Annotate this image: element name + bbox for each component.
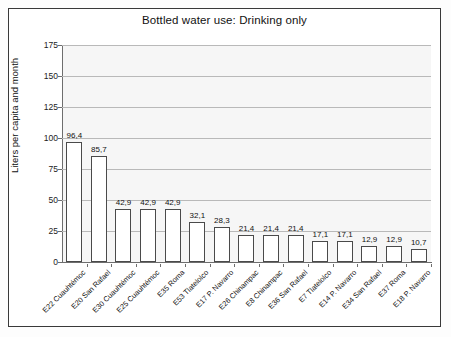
y-axis-ticks: 0255075100125150175 [28, 45, 58, 262]
bar[interactable] [214, 227, 230, 262]
x-tick-mark [259, 264, 260, 267]
bar[interactable] [189, 222, 205, 262]
x-tick-mark [160, 264, 161, 267]
bar-slot[interactable]: 42,9 [160, 45, 185, 262]
bar[interactable] [91, 156, 107, 262]
x-tick-mark [111, 264, 112, 267]
x-tick-mark [431, 264, 432, 267]
x-tick-mark [406, 264, 407, 267]
bar[interactable] [238, 235, 254, 262]
x-tick-label: E25 Cuauhtémoc [115, 268, 162, 315]
bar-value-label: 21,4 [288, 224, 304, 233]
bar-value-label: 96,4 [67, 131, 83, 140]
y-tick-label: 100 [32, 133, 58, 143]
bar[interactable] [312, 241, 328, 262]
bar-slot[interactable]: 21,4 [283, 45, 308, 262]
bar[interactable] [140, 209, 156, 262]
bar-slot[interactable]: 21,4 [259, 45, 284, 262]
y-tick-label: 25 [32, 226, 58, 236]
bar-value-label: 42,9 [140, 198, 156, 207]
bar-value-label: 21,4 [239, 224, 255, 233]
bar-value-label: 42,9 [116, 198, 132, 207]
bar-value-label: 21,4 [263, 224, 279, 233]
x-tick-mark [333, 264, 334, 267]
bar-slot[interactable]: 96,4 [62, 45, 87, 262]
bar-slot[interactable]: 12,9 [357, 45, 382, 262]
bar-series: 96,485,742,942,942,932,128,321,421,421,4… [62, 45, 431, 262]
x-tick-mark [357, 264, 358, 267]
bar[interactable] [386, 246, 402, 262]
bar[interactable] [411, 249, 427, 262]
bar-value-label: 12,9 [362, 235, 378, 244]
bar-slot[interactable]: 17,1 [308, 45, 333, 262]
bar-slot[interactable]: 85,7 [87, 45, 112, 262]
bar-value-label: 42,9 [165, 198, 181, 207]
x-tick-mark [308, 264, 309, 267]
bar-slot[interactable]: 28,3 [210, 45, 235, 262]
x-tick-mark [283, 264, 284, 267]
y-tick-label: 125 [32, 102, 58, 112]
bar[interactable] [361, 246, 377, 262]
x-tick-mark [210, 264, 211, 267]
x-tick-mark [382, 264, 383, 267]
bar-slot[interactable]: 17,1 [333, 45, 358, 262]
bar-slot[interactable]: 21,4 [234, 45, 259, 262]
x-tick-mark [87, 264, 88, 267]
bar-value-label: 12,9 [386, 235, 402, 244]
y-tick-label: 150 [32, 71, 58, 81]
y-axis-label: Liters per capita and month [9, 16, 20, 216]
bar[interactable] [337, 241, 353, 262]
bar-value-label: 28,3 [214, 216, 230, 225]
bar-value-label: 85,7 [91, 145, 107, 154]
y-tick-mark [58, 262, 62, 263]
bar-value-label: 32,1 [190, 211, 206, 220]
y-tick-label: 75 [32, 164, 58, 174]
bar-slot[interactable]: 12,9 [382, 45, 407, 262]
bar[interactable] [288, 235, 304, 262]
y-tick-label: 0 [32, 257, 58, 267]
y-tick-label: 50 [32, 195, 58, 205]
x-tick-mark [234, 264, 235, 267]
x-axis-line [62, 262, 432, 263]
bar-value-label: 10,7 [411, 238, 427, 247]
bar-slot[interactable]: 32,1 [185, 45, 210, 262]
bar[interactable] [263, 235, 279, 262]
x-axis-ticks: E22 CuauhtémocE20 San RafaelE30 Cuauhtém… [62, 264, 431, 324]
bar-slot[interactable]: 42,9 [136, 45, 161, 262]
x-tick-mark [185, 264, 186, 267]
bar-slot[interactable]: 42,9 [111, 45, 136, 262]
bar-slot[interactable]: 10,7 [406, 45, 431, 262]
bar[interactable] [115, 209, 131, 262]
chart-title: Bottled water use: Drinking only [8, 14, 441, 26]
bar[interactable] [165, 209, 181, 262]
bar[interactable] [66, 142, 82, 262]
x-tick-mark [136, 264, 137, 267]
y-tick-label: 175 [32, 40, 58, 50]
chart-figure: Bottled water use: Drinking only Liters … [0, 0, 451, 337]
bar-value-label: 17,1 [313, 230, 329, 239]
bar-value-label: 17,1 [337, 230, 353, 239]
